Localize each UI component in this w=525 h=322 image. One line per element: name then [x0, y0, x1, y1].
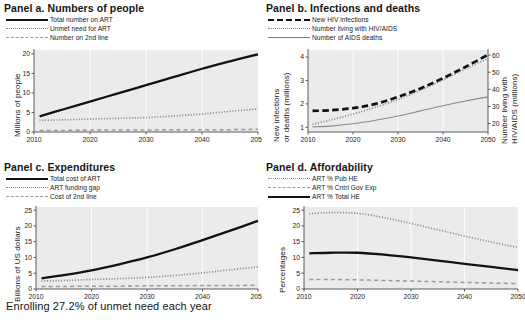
svg-text:2020: 2020 — [84, 293, 99, 300]
legend-item: ART % Total HE — [266, 192, 525, 201]
panel-b-title: Panel b. Infections and deaths — [266, 2, 525, 14]
panel-b-ylabel-line2: or deaths (millions) — [282, 72, 291, 142]
legend-item: Number on 2nd line — [4, 33, 262, 42]
legend-label: Number of AIDS deaths — [312, 34, 382, 41]
svg-text:10: 10 — [24, 254, 32, 261]
svg-text:2010: 2010 — [300, 136, 315, 143]
panel-d-title: Panel d. Affordability — [266, 161, 525, 173]
panel-a-title: Panel a. Numbers of people — [4, 2, 262, 14]
svg-text:20: 20 — [22, 50, 30, 57]
svg-text:2020: 2020 — [345, 136, 360, 143]
svg-text:2030: 2030 — [139, 293, 154, 300]
panel-b-svg: 1234203040506020102020203020402050 — [266, 42, 525, 150]
svg-text:2010: 2010 — [26, 136, 41, 143]
svg-text:10: 10 — [22, 89, 30, 96]
legend-label: ART % Total HE — [312, 193, 360, 200]
legend-label: Number on 2nd line — [50, 34, 108, 41]
legend-label: ART % Cntrl Gov Exp — [312, 184, 376, 191]
legend-swatch-dotted-icon — [4, 24, 50, 33]
legend-swatch-dotted-icon — [4, 183, 50, 192]
svg-text:5: 5 — [26, 109, 30, 116]
svg-text:2030: 2030 — [390, 136, 405, 143]
svg-text:15: 15 — [22, 70, 30, 77]
legend-item: Total cost of ART — [4, 174, 262, 183]
svg-text:2020: 2020 — [82, 136, 97, 143]
svg-text:15: 15 — [292, 238, 300, 245]
legend-swatch-dashed-bold-icon — [266, 15, 312, 24]
legend-swatch-dashed-icon — [4, 33, 50, 42]
svg-text:3: 3 — [300, 77, 304, 84]
svg-text:5: 5 — [296, 270, 300, 277]
svg-text:2: 2 — [300, 100, 304, 107]
svg-text:2040: 2040 — [435, 136, 450, 143]
legend-swatch-solid-thin-icon — [266, 33, 312, 42]
svg-text:40: 40 — [492, 86, 500, 93]
panel-c-svg: 051015202520102020203020402050 — [4, 201, 262, 309]
svg-text:20: 20 — [24, 222, 32, 229]
svg-text:2050: 2050 — [510, 293, 525, 300]
svg-text:2010: 2010 — [28, 293, 43, 300]
legend-swatch-dashed-icon — [4, 192, 50, 201]
panel-a-legend: Total number on ART Unmet need for ART N… — [4, 15, 262, 42]
legend-item: Cost of 2nd line — [4, 192, 262, 201]
legend-item: Total number on ART — [4, 15, 262, 24]
panel-a-svg: 0510152020102020203020402050 — [4, 42, 262, 150]
legend-item: ART % Cntrl Gov Exp — [266, 183, 525, 192]
svg-text:15: 15 — [24, 238, 32, 245]
panel-b-legend: New HIV infections Number living with HI… — [266, 15, 525, 42]
legend-item: New HIV infections — [266, 15, 525, 24]
legend-label: Total cost of ART — [50, 175, 101, 182]
legend-label: ART funding gap — [50, 184, 100, 191]
svg-text:0: 0 — [28, 285, 32, 292]
legend-label: New HIV infections — [312, 16, 369, 23]
svg-text:0: 0 — [26, 128, 30, 135]
legend-label: Total number on ART — [50, 16, 113, 23]
panel-c-title: Panel c. Expenditures — [4, 161, 262, 173]
panel-a: Panel a. Numbers of people Total number … — [4, 2, 262, 150]
legend-item: ART % Pub HE — [266, 174, 525, 183]
legend-item: ART funding gap — [4, 183, 262, 192]
svg-text:2050: 2050 — [480, 136, 495, 143]
svg-text:50: 50 — [492, 69, 500, 76]
panel-b-ylabel-line1: New infections — [272, 89, 281, 142]
svg-text:25: 25 — [24, 207, 32, 214]
legend-label: Number living with HIV/AIDS — [312, 25, 397, 32]
figure-caption: Enrolling 27.2% of unmet need each year — [6, 300, 212, 312]
legend-swatch-dotted-icon — [266, 24, 312, 33]
svg-text:20: 20 — [492, 120, 500, 127]
svg-text:20: 20 — [292, 222, 300, 229]
panel-d: Panel d. Affordability ART % Pub HE ART … — [266, 161, 525, 309]
panel-a-plot: Millions of people 051015202010202020302… — [4, 42, 262, 150]
panel-d-svg: 051015202520102020203020402050 — [266, 201, 525, 309]
panel-a-ylabel: Millions of people — [13, 73, 22, 137]
panel-d-plot: Percentages 0510152025201020202030204020… — [266, 201, 525, 309]
svg-text:2040: 2040 — [457, 293, 472, 300]
svg-text:25: 25 — [292, 207, 300, 214]
svg-text:60: 60 — [492, 52, 500, 59]
legend-swatch-solid-icon — [266, 192, 312, 201]
legend-label: Cost of 2nd line — [50, 193, 97, 200]
legend-item: Number of AIDS deaths — [266, 33, 525, 42]
svg-text:2020: 2020 — [350, 293, 365, 300]
svg-text:2030: 2030 — [403, 293, 418, 300]
legend-label: Unmet need for ART — [50, 25, 111, 32]
svg-text:5: 5 — [28, 270, 32, 277]
svg-text:2050: 2050 — [250, 136, 262, 143]
panel-c-legend: Total cost of ART ART funding gap Cost o… — [4, 174, 262, 201]
panel-d-ylabel: Percentages — [278, 247, 287, 293]
legend-swatch-solid-icon — [4, 15, 50, 24]
legend-swatch-solid-icon — [4, 174, 50, 183]
panel-b-plot: New infections or deaths (millions) Numb… — [266, 42, 525, 150]
legend-item: Number living with HIV/AIDS — [266, 24, 525, 33]
legend-swatch-dashed-icon — [266, 183, 312, 192]
panel-c-plot: Billions of US dollars 05101520252010202… — [4, 201, 262, 309]
svg-text:2030: 2030 — [138, 136, 153, 143]
panel-b-ylabel-right-line1: Number living with — [500, 77, 509, 144]
panel-c-ylabel: Billions of US dollars — [13, 226, 22, 302]
panel-b-ylabel-right-line2: HIV/AIDS (millions) — [510, 74, 519, 144]
svg-text:2040: 2040 — [195, 293, 210, 300]
legend-label: ART % Pub HE — [312, 175, 358, 182]
svg-text:0: 0 — [296, 285, 300, 292]
svg-text:2050: 2050 — [250, 293, 262, 300]
panel-d-legend: ART % Pub HE ART % Cntrl Gov Exp ART % T… — [266, 174, 525, 201]
